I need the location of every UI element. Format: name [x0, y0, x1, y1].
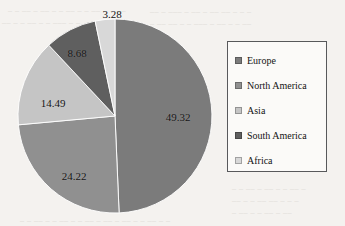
legend-label: South America — [247, 131, 307, 141]
slice-label-north-america: 24.22 — [62, 170, 87, 182]
pie-slice-north-america[interactable] — [18, 116, 119, 213]
legend-item-europe[interactable]: Europe — [235, 49, 326, 72]
legend-label: Asia — [247, 106, 265, 116]
legend-label: Africa — [247, 156, 273, 166]
slice-label-europe: 49.32 — [166, 111, 191, 123]
chart-legend: Europe North America Asia South America … — [227, 41, 327, 172]
pie-chart: 49.32 24.22 14.49 8.68 3.28 Europe North… — [0, 0, 345, 226]
legend-swatch-icon — [235, 132, 242, 139]
legend-swatch-icon — [235, 82, 242, 89]
legend-swatch-icon — [235, 107, 242, 114]
legend-label: North America — [247, 81, 307, 91]
pie-slice-europe[interactable] — [115, 19, 212, 213]
legend-item-asia[interactable]: Asia — [235, 99, 326, 122]
legend-item-north-america[interactable]: North America — [235, 74, 326, 97]
slice-label-asia: 14.49 — [41, 97, 66, 109]
slice-label-africa: 3.28 — [102, 8, 121, 20]
legend-item-south-america[interactable]: South America — [235, 124, 326, 147]
legend-swatch-icon — [235, 57, 242, 64]
chart-page: _ _ __ _ __ _ _ __ _ _ __ _ _ __ __ _ __… — [0, 0, 345, 226]
legend-label: Europe — [247, 56, 276, 66]
slice-label-south-america: 8.68 — [67, 47, 86, 59]
legend-swatch-icon — [235, 157, 242, 164]
legend-item-africa[interactable]: Africa — [235, 149, 326, 172]
